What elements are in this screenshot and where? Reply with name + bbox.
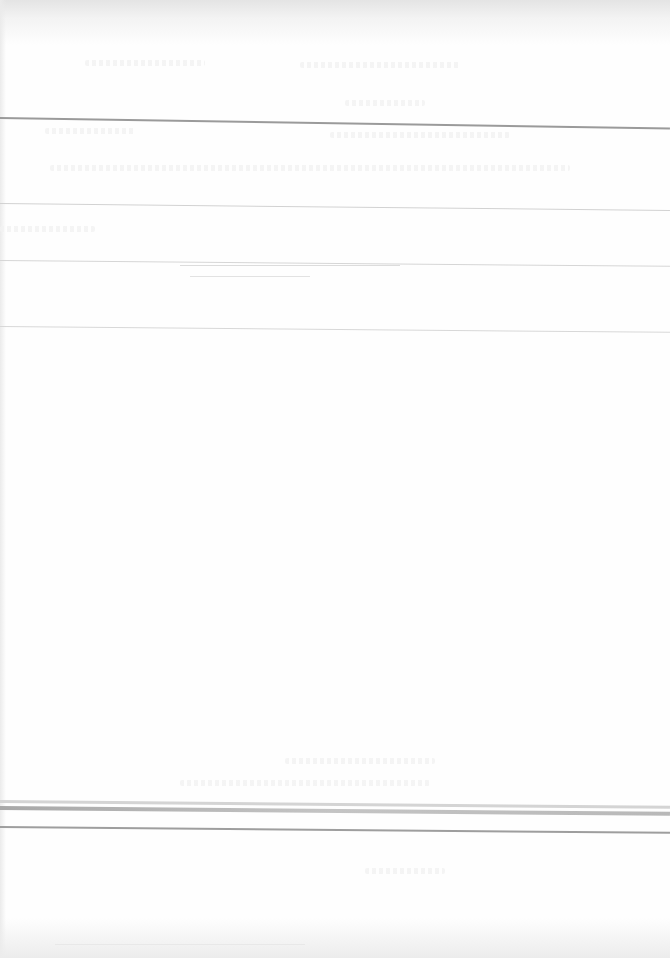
scan-left-edge <box>0 0 6 958</box>
scanned-page <box>0 0 670 958</box>
scan-bottom-shadow <box>0 918 670 958</box>
section-1-label <box>45 128 135 134</box>
section-underline-shorter <box>190 276 310 277</box>
footer-text-2 <box>180 780 430 786</box>
header-subtext <box>345 100 425 106</box>
section-1-text-line2 <box>50 165 570 171</box>
section-1-text <box>330 132 510 138</box>
section-underline-short <box>180 265 400 266</box>
lower-text-block <box>365 868 445 874</box>
scan-top-shadow <box>0 0 670 45</box>
section-rule-3 <box>0 326 670 333</box>
section-rule-1 <box>0 203 670 211</box>
footer-text-1 <box>285 758 435 764</box>
header-text-left <box>85 60 205 66</box>
bottom-rule <box>0 826 670 834</box>
header-text-center <box>300 62 460 68</box>
section-2-label <box>0 226 95 232</box>
